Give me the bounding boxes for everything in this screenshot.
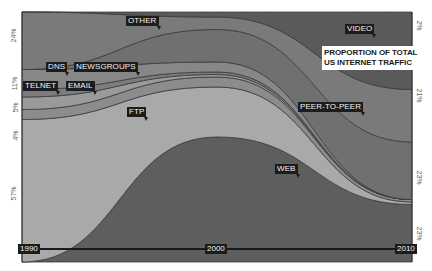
x-tick-label-2000: 2000 <box>205 244 227 254</box>
left-tick-label: 11% <box>11 77 18 91</box>
series-label-ftp: FTP <box>127 107 146 117</box>
x-tick-label-2010: 2010 <box>395 244 417 254</box>
series-label-email: EMAIL <box>66 81 95 91</box>
series-label-web: WEB <box>275 164 298 174</box>
right-tick-label: 21% <box>416 88 423 102</box>
left-tick-label: 4% <box>12 130 19 140</box>
right-tick-label: 23% <box>416 226 423 240</box>
right-tick-label: 2% <box>416 20 423 30</box>
chart-title-line-1: PROPORTION OF TOTAL <box>324 48 422 58</box>
chart-title: PROPORTION OF TOTAL US INTERNET TRAFFIC <box>322 46 424 70</box>
chart-title-line-2: US INTERNET TRAFFIC <box>324 58 422 68</box>
series-label-video: VIDEO <box>345 24 374 34</box>
series-label-dns: DNS <box>46 62 67 72</box>
series-label-other: OTHER <box>126 16 159 26</box>
left-tick-label: 5% <box>12 102 19 112</box>
left-tick-label: 57% <box>10 186 17 200</box>
left-tick-label: 24% <box>10 28 17 42</box>
series-label-peer-to-peer: PEER-TO-PEER <box>298 102 363 112</box>
stacked-area-chart <box>0 0 432 271</box>
series-label-newsgroups: NEWSGROUPS <box>74 62 138 72</box>
right-tick-label: 23% <box>416 170 423 184</box>
series-label-telnet: TELNET <box>23 81 58 91</box>
x-tick-label-1990: 1990 <box>18 244 40 254</box>
